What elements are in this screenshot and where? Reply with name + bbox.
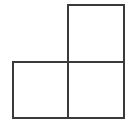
top-right-square	[68, 5, 124, 62]
bottom-left-square	[13, 62, 68, 118]
bottom-right-square	[68, 62, 124, 118]
figure-canvas	[0, 0, 136, 131]
l-tromino-diagram	[0, 0, 136, 131]
